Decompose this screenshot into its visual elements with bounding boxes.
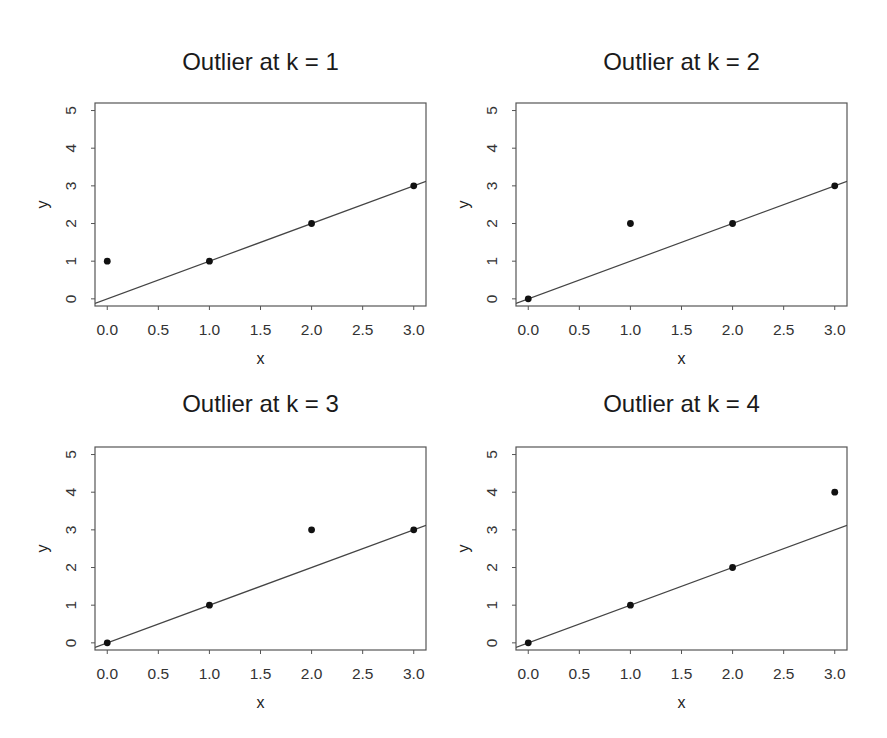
- x-axis-label: x: [678, 350, 686, 367]
- x-tick-label: 1.5: [671, 321, 693, 338]
- y-tick-label: 3: [62, 182, 79, 191]
- x-tick-label: 0.0: [517, 665, 539, 682]
- x-tick-label: 2.5: [352, 321, 374, 338]
- data-point: [410, 526, 417, 533]
- y-tick-label: 0: [62, 638, 79, 647]
- x-tick-label: 3.0: [403, 665, 425, 682]
- plot-frame: [516, 103, 847, 306]
- x-tick-label: 3.0: [824, 321, 846, 338]
- x-tick-label: 0.0: [517, 321, 539, 338]
- y-tick-label: 5: [483, 450, 500, 459]
- fit-line: [516, 181, 847, 303]
- x-tick-label: 1.5: [250, 321, 272, 338]
- data-point: [308, 526, 315, 533]
- x-tick-label: 1.0: [620, 321, 642, 338]
- y-tick-label: 0: [62, 294, 79, 303]
- y-tick-label: 1: [483, 601, 500, 610]
- panel-outlier-k3: Outlier at k = 3 x y 0.00.51.01.52.02.53…: [0, 369, 443, 738]
- y-tick-label: 1: [62, 601, 79, 610]
- data-point: [206, 602, 213, 609]
- x-tick-label: 2.0: [301, 665, 323, 682]
- panel-title: Outlier at k = 2: [603, 48, 760, 75]
- y-tick-label: 4: [483, 488, 500, 497]
- y-tick-label: 2: [483, 219, 500, 228]
- y-axis-label: y: [34, 545, 51, 553]
- x-tick-label: 2.0: [722, 665, 744, 682]
- x-tick-label: 2.5: [773, 665, 795, 682]
- x-tick-label: 0.0: [96, 665, 118, 682]
- y-tick-label: 5: [483, 106, 500, 115]
- data-point: [525, 639, 532, 646]
- data-point: [831, 182, 838, 189]
- x-axis-label: x: [257, 694, 265, 711]
- x-tick-label: 0.5: [148, 321, 170, 338]
- panel-outlier-k2: Outlier at k = 2 x y 0.00.51.01.52.02.53…: [443, 0, 886, 369]
- plot-frame: [95, 103, 426, 306]
- data-point: [729, 220, 736, 227]
- x-axis-label: x: [257, 350, 265, 367]
- fit-line: [95, 181, 426, 303]
- plot-area: 0.00.51.01.52.02.53.0012345: [483, 447, 847, 682]
- plot-svg: Outlier at k = 4 x y 0.00.51.01.52.02.53…: [443, 369, 886, 738]
- data-point: [831, 489, 838, 496]
- x-axis-label: x: [678, 694, 686, 711]
- y-tick-label: 1: [62, 257, 79, 266]
- x-tick-label: 1.0: [620, 665, 642, 682]
- data-point: [729, 564, 736, 571]
- x-tick-label: 3.0: [403, 321, 425, 338]
- x-tick-label: 1.5: [250, 665, 272, 682]
- x-tick-label: 3.0: [824, 665, 846, 682]
- plot-area: 0.00.51.01.52.02.53.0012345: [483, 103, 847, 338]
- y-tick-label: 5: [62, 450, 79, 459]
- y-tick-label: 4: [62, 488, 79, 497]
- panel-outlier-k1: Outlier at k = 1 x y 0.00.51.01.52.02.53…: [0, 0, 443, 369]
- plot-area: 0.00.51.01.52.02.53.0012345: [62, 103, 426, 338]
- data-point: [104, 639, 111, 646]
- panel-outlier-k4: Outlier at k = 4 x y 0.00.51.01.52.02.53…: [443, 369, 886, 738]
- x-tick-label: 1.5: [671, 665, 693, 682]
- y-tick-label: 0: [483, 638, 500, 647]
- y-tick-label: 0: [483, 294, 500, 303]
- data-point: [627, 602, 634, 609]
- x-tick-label: 2.5: [773, 321, 795, 338]
- plot-svg: Outlier at k = 2 x y 0.00.51.01.52.02.53…: [443, 0, 886, 369]
- y-tick-label: 2: [62, 563, 79, 572]
- x-tick-label: 1.0: [199, 321, 221, 338]
- panel-title: Outlier at k = 3: [182, 390, 339, 417]
- y-tick-label: 1: [483, 257, 500, 266]
- y-tick-label: 4: [62, 144, 79, 153]
- y-tick-label: 3: [483, 526, 500, 535]
- plot-svg: Outlier at k = 3 x y 0.00.51.01.52.02.53…: [0, 369, 443, 738]
- y-tick-label: 3: [483, 182, 500, 191]
- plot-svg: Outlier at k = 1 x y 0.00.51.01.52.02.53…: [0, 0, 443, 369]
- plot-frame: [516, 447, 847, 650]
- y-axis-label: y: [455, 201, 472, 209]
- y-tick-label: 2: [62, 219, 79, 228]
- x-tick-label: 0.5: [569, 321, 591, 338]
- data-point: [104, 258, 111, 265]
- x-tick-label: 1.0: [199, 665, 221, 682]
- y-tick-label: 3: [62, 526, 79, 535]
- x-tick-label: 2.5: [352, 665, 374, 682]
- panel-title: Outlier at k = 4: [603, 390, 760, 417]
- plot-frame: [95, 447, 426, 650]
- data-point: [525, 295, 532, 302]
- plot-area: 0.00.51.01.52.02.53.0012345: [62, 447, 426, 682]
- y-axis-label: y: [34, 201, 51, 209]
- y-tick-label: 2: [483, 563, 500, 572]
- data-point: [410, 182, 417, 189]
- y-tick-label: 4: [483, 144, 500, 153]
- data-point: [308, 220, 315, 227]
- x-tick-label: 0.5: [148, 665, 170, 682]
- fit-line: [516, 525, 847, 647]
- panel-title: Outlier at k = 1: [182, 48, 339, 75]
- x-tick-label: 0.0: [96, 321, 118, 338]
- y-tick-label: 5: [62, 106, 79, 115]
- x-tick-label: 2.0: [722, 321, 744, 338]
- x-tick-label: 0.5: [569, 665, 591, 682]
- data-point: [627, 220, 634, 227]
- fit-line: [95, 525, 426, 647]
- y-axis-label: y: [455, 545, 472, 553]
- data-point: [206, 258, 213, 265]
- x-tick-label: 2.0: [301, 321, 323, 338]
